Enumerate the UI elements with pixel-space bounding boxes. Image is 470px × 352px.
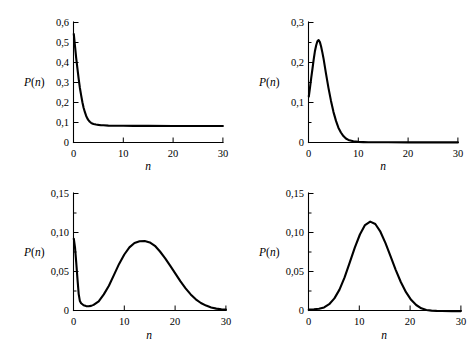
data-curve: [74, 34, 223, 126]
chart-panel-bottom-right: 0,15 0,10 0,05 0 0 10 20 30 P(n) n: [235, 176, 470, 352]
y-axis-label: P(n): [23, 246, 45, 259]
x-ticklabel: 10: [354, 316, 365, 327]
plot-svg-bottom-left: 0,15 0,10 0,05 0 0 10 20 30 P(n) n: [0, 176, 235, 352]
y-ticklabel: 0: [64, 305, 69, 316]
x-ticklabel: 0: [306, 148, 311, 159]
data-curve: [309, 222, 461, 312]
y-ticklabel: 0,1: [291, 97, 304, 108]
x-ticklabel: 10: [119, 316, 130, 327]
y-ticklabel: 0,15: [286, 188, 304, 199]
x-ticklabel: 30: [456, 316, 467, 327]
x-ticklabel: 20: [403, 148, 414, 159]
y-ticklabel: 0,05: [286, 266, 304, 277]
chart-panel-bottom-left: 0,15 0,10 0,05 0 0 10 20 30 P(n) n: [0, 176, 235, 352]
plot-svg-bottom-right: 0,15 0,10 0,05 0 0 10 20 30 P(n) n: [235, 176, 470, 352]
x-tick-marks: [74, 138, 223, 143]
x-ticklabel: 20: [170, 316, 181, 327]
y-axis-label: P(n): [258, 246, 280, 259]
chart-panel-top-left: 0,6 0,5 0,4 0,3 0,2 0,1 0 0 10 20 30 P(n…: [0, 0, 235, 176]
y-ticklabel: 0,2: [291, 57, 304, 68]
y-axis-label: P(n): [258, 76, 280, 89]
y-ticklabel: 0,5: [56, 37, 69, 48]
y-ticklabel: 0,1: [56, 117, 69, 128]
x-ticklabel: 10: [118, 148, 129, 159]
y-ticklabel: 0,3: [56, 77, 69, 88]
y-ticklabel: 0,3: [291, 17, 304, 28]
y-ticklabel: 0,2: [56, 97, 69, 108]
y-ticklabel: 0,6: [56, 17, 69, 28]
x-axis-label: n: [381, 329, 387, 341]
y-ticklabel: 0,10: [286, 227, 304, 238]
four-panel-probability-figure: 0,6 0,5 0,4 0,3 0,2 0,1 0 0 10 20 30 P(n…: [0, 0, 470, 352]
x-ticklabel: 0: [306, 316, 311, 327]
x-ticklabel: 30: [453, 148, 464, 159]
x-axis-label: n: [146, 329, 152, 341]
x-ticklabel: 10: [353, 148, 364, 159]
x-axis-label: n: [145, 160, 151, 172]
plot-svg-top-left: 0,6 0,5 0,4 0,3 0,2 0,1 0 0 10 20 30 P(n…: [0, 0, 235, 176]
data-curve: [74, 239, 226, 310]
x-tick-marks: [74, 306, 226, 311]
x-ticklabel: 30: [218, 148, 229, 159]
y-ticklabel: 0: [299, 305, 304, 316]
y-ticklabel: 0,15: [51, 188, 69, 199]
x-tick-marks: [309, 306, 461, 311]
x-ticklabel: 20: [168, 148, 179, 159]
y-axis-label: P(n): [23, 76, 45, 89]
y-tick-marks: [309, 194, 314, 311]
x-ticklabel: 0: [71, 148, 76, 159]
y-ticklabel: 0: [299, 137, 304, 148]
plot-svg-top-right: 0,3 0,2 0,1 0 0 10 20 30 P(n) n: [235, 0, 470, 176]
chart-panel-top-right: 0,3 0,2 0,1 0 0 10 20 30 P(n) n: [235, 0, 470, 176]
x-ticklabel: 30: [221, 316, 232, 327]
x-axis-label: n: [380, 160, 386, 172]
x-ticklabel: 0: [71, 316, 76, 327]
data-curve: [309, 40, 458, 142]
x-ticklabel: 20: [405, 316, 416, 327]
y-ticklabel: 0,10: [51, 227, 69, 238]
y-ticklabel: 0: [64, 137, 69, 148]
y-ticklabel: 0,4: [56, 57, 70, 68]
y-ticklabel: 0,05: [51, 266, 69, 277]
